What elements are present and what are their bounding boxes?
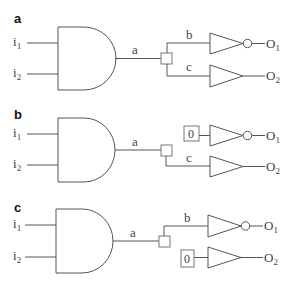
fanout-node [159,236,170,247]
inverter-buffer [210,33,243,54]
output-label-o1: O1 [264,218,278,235]
signal-label-c: c [186,59,192,74]
input-label-i1: i1 [13,125,21,142]
and-gate [58,118,115,182]
constant-zero-label: 0 [184,252,190,266]
panel-a: a i1 i2 a b c O1 O2 [13,11,280,90]
input-label-i2: i2 [13,65,21,82]
panel-b: b i1 i2 a c 0 O1 O2 [13,107,280,182]
and-gate [56,209,113,273]
buffer [210,65,243,87]
input-label-i1: i1 [13,34,21,51]
inversion-bubble [243,39,251,47]
output-label-o1: O1 [266,128,280,145]
fanout-node [161,145,172,156]
output-label-o2: O2 [266,159,280,176]
signal-label-a: a [132,134,138,149]
inverter-buffer [210,125,243,146]
signal-label-b: b [184,210,191,225]
inversion-bubble [243,131,251,139]
panel-c: c i1 i2 a b O1 0 O2 [13,200,278,273]
output-label-o2: O2 [264,250,278,267]
input-label-i1: i1 [13,216,21,233]
signal-label-a: a [132,42,138,57]
branch-wire-b [164,226,208,236]
branch-wire-b [167,43,210,53]
fanout-node [161,53,172,64]
input-label-i2: i2 [13,248,21,265]
signal-label-a: a [130,225,136,240]
logic-circuit-figure: a i1 i2 a b c O1 O2 b i1 i2 [0,0,291,290]
buffer [210,156,243,177]
panel-label: a [14,11,22,26]
signal-label-c: c [186,150,192,165]
inversion-bubble [241,222,249,230]
output-label-o2: O2 [266,68,280,85]
buffer [208,247,241,268]
input-label-i2: i2 [13,156,21,173]
output-label-o1: O1 [266,36,280,53]
inverter-buffer [208,215,241,237]
panel-label: c [14,200,21,215]
constant-zero-label: 0 [188,127,194,141]
and-gate [58,27,116,90]
panel-label: b [14,107,22,122]
signal-label-b: b [186,27,193,42]
